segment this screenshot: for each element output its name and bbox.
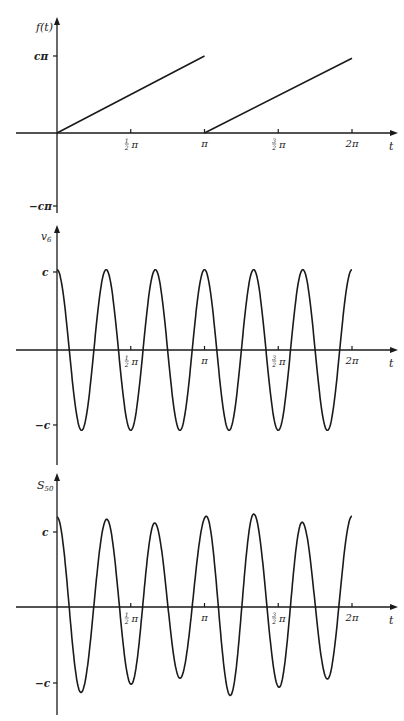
x-axis-arrow-icon bbox=[390, 347, 398, 353]
y-axis-label: v6 bbox=[41, 230, 52, 244]
x-tick-label-denominator: 2 bbox=[124, 144, 129, 151]
y-axis-arrow-icon bbox=[54, 17, 60, 25]
x-tick-label-numerator: 1 bbox=[125, 137, 129, 144]
x-tick-label-numerator: 3 bbox=[272, 611, 276, 618]
plot-f-of-t: f(t) cπ −cπ 12ππ32π2π t bbox=[16, 17, 398, 213]
x-tick-label-pi: π bbox=[130, 139, 138, 150]
x-tick-label: π bbox=[200, 612, 208, 623]
x-axis-label: t bbox=[389, 614, 394, 627]
x-tick-label-pi: π bbox=[278, 356, 286, 367]
x-tick-label-numerator: 1 bbox=[125, 354, 129, 361]
y-tick-label-bottom: −c bbox=[35, 677, 51, 689]
x-tick-label: 2π bbox=[345, 355, 359, 366]
x-tick-label-denominator: 2 bbox=[124, 618, 129, 625]
x-tick-label-pi: π bbox=[278, 139, 286, 150]
x-tick-label-pi: π bbox=[130, 613, 138, 624]
x-axis-arrow-icon bbox=[390, 130, 398, 136]
x-tick-label-pi: π bbox=[130, 356, 138, 367]
y-tick-label-bottom: −c bbox=[35, 419, 51, 431]
y-tick-label-top: c bbox=[42, 266, 49, 278]
sawtooth-curve bbox=[57, 56, 352, 133]
y-axis-label: f(t) bbox=[35, 21, 53, 34]
x-tick-label-denominator: 2 bbox=[271, 361, 276, 368]
x-tick-label: 2π bbox=[345, 138, 359, 149]
x-axis-arrow-icon bbox=[390, 604, 398, 610]
y-axis-arrow-icon bbox=[54, 473, 60, 481]
x-ticks: 12ππ32π2π bbox=[124, 129, 359, 151]
x-axis-label: t bbox=[389, 140, 394, 153]
y-axis-arrow-icon bbox=[54, 225, 60, 233]
x-axis-label: t bbox=[389, 357, 394, 370]
figure-svg: f(t) cπ −cπ 12ππ32π2π t v6 c −c 12ππ32π2… bbox=[0, 0, 404, 721]
y-tick-label-top: cπ bbox=[34, 50, 48, 62]
x-tick-label-denominator: 2 bbox=[124, 361, 129, 368]
x-tick-label-pi: π bbox=[278, 613, 286, 624]
x-tick-label-numerator: 3 bbox=[272, 137, 276, 144]
x-tick-label-numerator: 1 bbox=[125, 611, 129, 618]
y-tick-label-bottom: −cπ bbox=[29, 200, 52, 212]
x-tick-label-numerator: 3 bbox=[272, 354, 276, 361]
plot-v6: v6 c −c 12ππ32π2π t bbox=[16, 225, 398, 465]
x-tick-label: π bbox=[200, 138, 208, 149]
x-tick-label: π bbox=[200, 355, 208, 366]
y-axis-label: S50 bbox=[37, 479, 54, 493]
x-tick-label-denominator: 2 bbox=[271, 618, 276, 625]
plot-s50: S50 c −c 12ππ32π2π t bbox=[16, 473, 398, 715]
figure: f(t) cπ −cπ 12ππ32π2π t v6 c −c 12ππ32π2… bbox=[0, 0, 404, 721]
y-tick-label-top: c bbox=[42, 526, 49, 538]
x-tick-label-denominator: 2 bbox=[271, 144, 276, 151]
x-tick-label: 2π bbox=[345, 612, 359, 623]
